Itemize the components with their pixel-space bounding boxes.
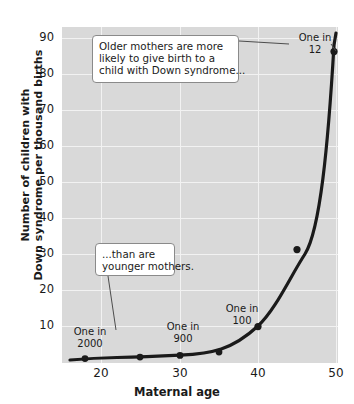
ytick-label-10: 10	[14, 320, 54, 331]
xtick-label-20: 20	[81, 366, 121, 380]
callout-older-mothers: Older mothers are more likely to give bi…	[92, 35, 239, 83]
marker-age-30	[177, 352, 184, 359]
point-annotation-900-line1: One in	[155, 321, 211, 333]
point-annotation-one-in-2000: One in 2000	[62, 326, 118, 349]
point-annotation-one-in-900: One in 900	[155, 321, 211, 344]
down-syndrome-maternal-age-chart: 90 80 70 60 50 40 30 20 10 20 30 40 50 M…	[0, 0, 354, 404]
y-axis-title: Number of children with Down syndrome pe…	[19, 15, 45, 315]
callout-older-line3: child with Down syndrome...	[99, 64, 233, 76]
callout-younger-line2: younger mothers.	[102, 260, 169, 272]
callout-younger-mothers: ...than are younger mothers.	[95, 243, 175, 276]
x-axis-title: Maternal age	[0, 385, 354, 399]
xtick-label-30: 30	[160, 366, 200, 380]
point-annotation-one-in-100: One in 100	[214, 303, 270, 326]
marker-age-25	[137, 354, 144, 361]
marker-age-18	[82, 355, 89, 362]
xtick-label-50: 50	[316, 366, 354, 380]
marker-age-45	[293, 246, 300, 253]
y-axis-title-line2: Down syndrome per thousand births	[32, 15, 45, 315]
point-annotation-2000-line2: 2000	[62, 338, 118, 350]
callout-older-line1: Older mothers are more	[99, 40, 233, 52]
point-annotation-one-in-12: One in 12	[290, 32, 340, 55]
point-annotation-12-line2: 12	[290, 44, 340, 56]
xtick-label-40: 40	[238, 366, 278, 380]
point-annotation-2000-line1: One in	[62, 326, 118, 338]
point-annotation-100-line1: One in	[214, 303, 270, 315]
y-axis-title-line1: Number of children with	[19, 15, 32, 315]
callout-younger-line1: ...than are	[102, 248, 169, 260]
point-annotation-100-line2: 100	[214, 315, 270, 327]
marker-age-35	[216, 349, 223, 356]
point-annotation-900-line2: 900	[155, 333, 211, 345]
point-annotation-12-line1: One in	[290, 32, 340, 44]
callout-older-line2: likely to give birth to a	[99, 52, 233, 64]
